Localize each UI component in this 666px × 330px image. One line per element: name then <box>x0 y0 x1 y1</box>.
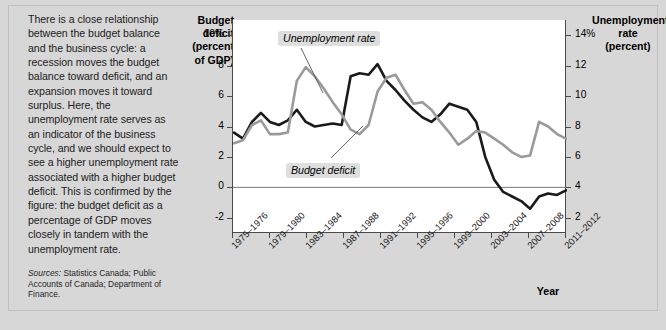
axis-tick-mark <box>227 127 232 128</box>
axis-tick-mark <box>227 96 232 97</box>
axis-tick-label: 10% <box>186 28 224 39</box>
axis-tick-mark <box>566 157 571 158</box>
figure-caption: There is a close relationship between th… <box>28 12 180 256</box>
y-axis-title-line-1: Budget <box>180 14 234 27</box>
axis-tick-mark <box>566 35 571 36</box>
axis-tick-mark <box>566 218 571 219</box>
axis-tick-mark <box>566 187 571 188</box>
axis-tick-label: 4 <box>575 180 615 191</box>
axis-tick-mark <box>227 157 232 158</box>
chart-lines <box>233 20 567 233</box>
figure-panel: There is a close relationship between th… <box>0 0 666 330</box>
y2-axis-title-line-1: Unemployment <box>592 14 664 27</box>
axis-tick-mark <box>227 187 232 188</box>
figure-sources: Sources: Statistics Canada; Public Accou… <box>28 268 188 300</box>
axis-tick-label: 8 <box>186 59 224 70</box>
axis-tick-label: 12 <box>575 59 615 70</box>
axis-tick-mark <box>227 218 232 219</box>
axis-tick-label: -2 <box>186 211 224 222</box>
series-label-unemployment-rate: Unemployment rate <box>278 31 380 46</box>
axis-tick-label: 0 <box>186 180 224 191</box>
axis-tick-label: 6 <box>186 89 224 100</box>
axis-tick-label: 2 <box>186 150 224 161</box>
series-label-budget-deficit: Budget deficit <box>286 163 360 178</box>
axis-tick-label: 6 <box>575 150 615 161</box>
axis-tick-label: 8 <box>575 120 615 131</box>
y-axis-title-line-3: (percent <box>180 40 234 53</box>
axis-tick-label: 4 <box>186 120 224 131</box>
sources-label: Sources: <box>28 268 61 278</box>
y2-axis-title-line-3: (percent) <box>592 40 664 53</box>
axis-tick-mark <box>566 127 571 128</box>
x-axis-title: Year <box>520 285 576 298</box>
axis-tick-mark <box>566 66 571 67</box>
axis-tick-mark <box>566 96 571 97</box>
axis-tick-label: 14% <box>575 28 615 39</box>
plot-area <box>232 20 566 233</box>
axis-tick-mark <box>227 66 232 67</box>
axis-tick-mark <box>227 35 232 36</box>
axis-tick-label: 10 <box>575 89 615 100</box>
